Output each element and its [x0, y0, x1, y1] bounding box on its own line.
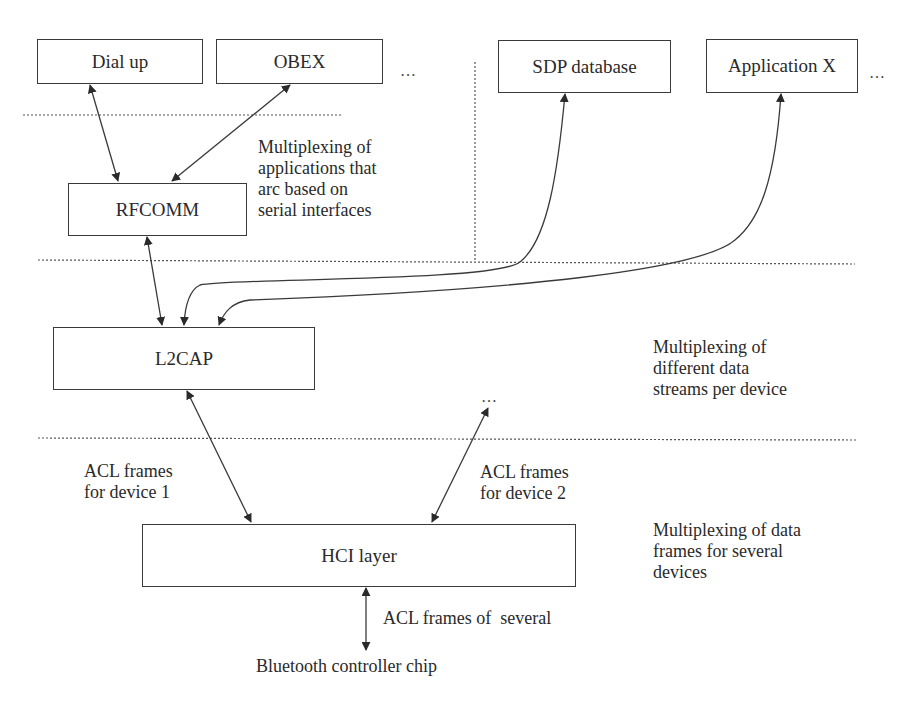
- box-application-x-label: Application X: [728, 55, 836, 77]
- box-dial-up: Dial up: [37, 39, 203, 84]
- box-sdp-database: SDP database: [498, 40, 671, 93]
- box-hci-layer-label: HCI layer: [321, 545, 396, 567]
- protocol-stack-diagram: Dial up OBEX SDP database Application X …: [0, 0, 913, 718]
- annotation-rfcomm-multiplexing: Multiplexing of applications that arc ba…: [258, 137, 376, 221]
- box-rfcomm-label: RFCOMM: [116, 199, 199, 221]
- box-application-x: Application X: [706, 39, 858, 93]
- box-obex-label: OBEX: [274, 51, 326, 73]
- box-rfcomm: RFCOMM: [68, 183, 247, 236]
- annotation-acl-device2: ACL frames for device 2: [480, 462, 569, 504]
- arrow-rfcomm-l2cap: [147, 237, 162, 325]
- ellipsis-after-application-x: …: [869, 64, 886, 82]
- layer-separator-l2cap-hci: [38, 438, 858, 440]
- arrow-l2cap-hci-device1: [187, 391, 251, 522]
- label-controller-chip: Bluetooth controller chip: [256, 656, 437, 677]
- annotation-l2cap-multiplexing: Multiplexing of different data streams p…: [653, 337, 787, 400]
- box-l2cap: L2CAP: [53, 327, 315, 390]
- box-dial-up-label: Dial up: [92, 51, 148, 73]
- box-l2cap-label: L2CAP: [155, 348, 213, 370]
- box-sdp-database-label: SDP database: [532, 56, 636, 78]
- annotation-hci-multiplexing: Multiplexing of data frames for several …: [653, 520, 801, 583]
- ellipsis-after-obex: …: [400, 62, 417, 80]
- annotation-acl-several: ACL frames of several: [383, 608, 551, 629]
- ellipsis-above-device2: …: [481, 388, 498, 406]
- annotation-acl-device1: ACL frames for device 1: [84, 461, 173, 503]
- arrow-dialup-rfcomm: [90, 85, 118, 181]
- box-hci-layer: HCI layer: [142, 524, 576, 587]
- layer-separator-rfcomm-l2cap: [38, 260, 855, 264]
- box-obex: OBEX: [216, 39, 383, 84]
